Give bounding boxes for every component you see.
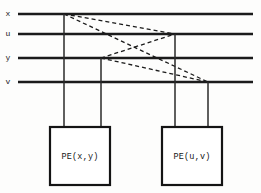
bus-label-group: x u y v bbox=[6, 9, 11, 86]
pe-box-group: PE(x,y) PE(u,v) bbox=[50, 127, 222, 185]
diagram-canvas: x u y v PE(x,y) PE(u,v) bbox=[0, 0, 261, 193]
cross-link-x-v bbox=[64, 14, 208, 82]
pe-box-left-label: PE(x,y) bbox=[61, 152, 98, 162]
cross-link-group bbox=[64, 14, 208, 82]
cross-link-y-v bbox=[101, 58, 208, 82]
drop-line-group bbox=[64, 14, 208, 128]
bus-label-x: x bbox=[6, 9, 11, 18]
pe-interconnect-diagram: x u y v PE(x,y) PE(u,v) bbox=[0, 0, 261, 193]
bus-label-v: v bbox=[6, 77, 11, 86]
bus-label-u: u bbox=[6, 29, 11, 38]
bus-label-y: y bbox=[6, 53, 11, 62]
cross-link-x-u bbox=[64, 14, 175, 34]
pe-box-right-label: PE(u,v) bbox=[173, 152, 210, 162]
cross-link-y-u bbox=[101, 34, 175, 58]
